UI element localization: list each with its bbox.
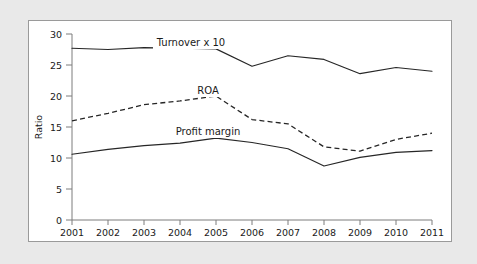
figure-root: 30 25 20 15 10 5 0 Ratio <box>0 0 477 264</box>
chart-panel <box>28 20 452 242</box>
